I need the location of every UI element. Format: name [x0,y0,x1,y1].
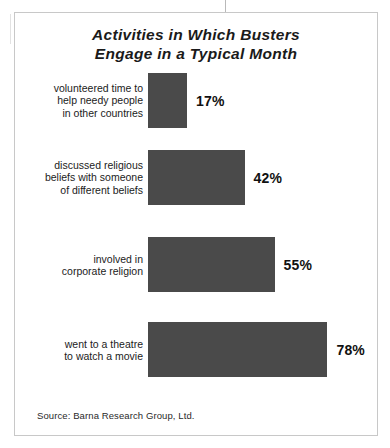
bar-row: discussed religious beliefs with someone… [15,150,379,205]
bar-involved-corporate-religion [148,237,275,292]
bar-row: went to a theatre to watch a movie 78% [15,322,379,377]
chart-frame: Activities in Which Busters Engage in a … [14,12,378,436]
bar-category-label: volunteered time to help needy people in… [23,82,143,120]
bar-value-label: 78% [336,342,365,358]
bar-category-label: went to a theatre to watch a movie [23,337,143,362]
bar-row: volunteered time to help needy people in… [15,73,379,128]
bar-value-label: 55% [284,257,313,273]
bar-volunteered-time [148,73,187,128]
chart-title: Activities in Which Busters Engage in a … [15,25,377,63]
chart-title-line-1: Activities in Which Busters [15,25,377,44]
bar-row: involved in corporate religion 55% [15,237,379,292]
bar-went-to-theatre [148,322,327,377]
bar-category-label: discussed religious beliefs with someone… [23,159,143,197]
source-attribution: Source: Barna Research Group, Ltd. [37,410,195,421]
chart-title-line-2: Engage in a Typical Month [15,44,377,63]
plot-area: volunteered time to help needy people in… [15,73,379,395]
bar-value-label: 42% [254,170,283,186]
bar-discussed-religious-beliefs [148,150,245,205]
bar-category-label: involved in corporate religion [23,252,143,277]
bar-value-label: 17% [196,93,225,109]
scan-artifact-line-left [10,14,11,44]
